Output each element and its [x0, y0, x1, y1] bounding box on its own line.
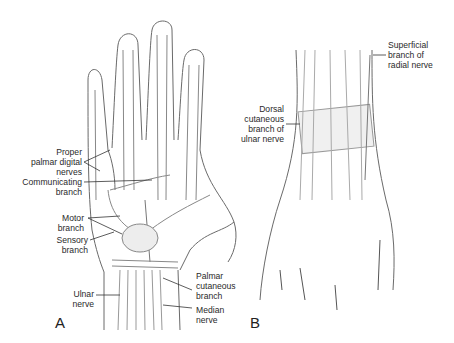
panel-letter-b: B	[250, 314, 260, 331]
label-proper-palmar-digital-nerves: Proper palmar digital nerves	[20, 147, 82, 177]
label-communicating-branch: Communicating branch	[14, 177, 82, 197]
panel-b-wrist-dorsal	[260, 50, 394, 310]
label-motor-branch: Motor branch	[20, 213, 84, 233]
label-superficial-branch-radial-nerve: Superficial branch of radial nerve	[388, 40, 433, 70]
label-sensory-branch: Sensory branch	[20, 235, 88, 255]
label-median-nerve: Median nerve	[196, 305, 224, 325]
panel-letter-a: A	[55, 314, 65, 331]
label-palmar-cutaneous-branch: Palmar cutaneous branch	[196, 271, 236, 301]
label-dorsal-cutaneous-branch-ulnar-nerve: Dorsal cutaneous branch of ulnar nerve	[226, 104, 284, 144]
label-ulnar-nerve: Ulnar nerve	[50, 289, 94, 309]
